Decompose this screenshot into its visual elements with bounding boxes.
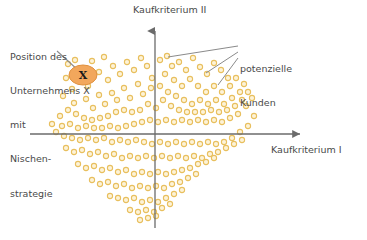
scatter-dot xyxy=(139,199,144,204)
scatter-dot xyxy=(153,105,158,110)
scatter-dot xyxy=(218,67,223,72)
scatter-dot xyxy=(155,169,160,174)
scatter-dot xyxy=(160,97,165,102)
scatter-dot xyxy=(135,81,140,86)
scatter-dot xyxy=(157,83,162,88)
scatter-dot xyxy=(185,175,190,180)
scatter-dot xyxy=(213,141,218,146)
annotation-line: Unternehmens X xyxy=(10,85,90,96)
scatter-dot xyxy=(181,141,186,146)
scatter-dot xyxy=(159,153,164,158)
annotation-line: Position des xyxy=(10,51,90,62)
scatter-dot xyxy=(111,151,116,156)
scatter-dot xyxy=(135,155,140,160)
scatter-dot xyxy=(163,171,168,176)
scatter-dot xyxy=(187,165,192,170)
scatter-dot xyxy=(203,89,208,94)
scatter-dot xyxy=(179,167,184,172)
scatter-dot xyxy=(208,107,213,112)
scatter-dot xyxy=(141,139,146,144)
scatter-dot xyxy=(149,75,154,80)
scatter-dot xyxy=(110,63,115,68)
scatter-dot xyxy=(90,105,95,110)
scatter-dot xyxy=(147,197,152,202)
scatter-dot xyxy=(139,169,144,174)
scatter-dot xyxy=(138,55,143,60)
scatter-dot xyxy=(129,185,134,190)
scatter-dot xyxy=(163,195,168,200)
scatter-dot xyxy=(175,153,180,158)
scatter-dot xyxy=(133,137,138,142)
scatter-dot xyxy=(200,109,205,114)
annotation-line: potenzielle xyxy=(240,63,292,74)
scatter-dot xyxy=(189,139,194,144)
scatter-dot xyxy=(159,205,164,210)
scatter-dot xyxy=(89,117,94,122)
scatter-dot xyxy=(225,75,230,80)
scatter-dot xyxy=(155,119,160,124)
scatter-dot xyxy=(169,63,174,68)
y-axis-label: Kaufkriterium II xyxy=(133,4,206,15)
scatter-dot xyxy=(89,58,94,63)
scatter-dot xyxy=(155,199,160,204)
scatter-dot xyxy=(149,141,154,146)
scatter-dot xyxy=(192,109,197,114)
scatter-dot xyxy=(109,139,114,144)
scatter-dot xyxy=(137,217,142,222)
scatter-dot xyxy=(137,107,142,112)
scatter-dot xyxy=(123,197,128,202)
scatter-dot xyxy=(171,169,176,174)
scatter-dot xyxy=(145,185,150,190)
scatter-dot xyxy=(121,85,126,90)
scatter-dot xyxy=(168,103,173,108)
scatter-dot xyxy=(219,89,224,94)
scatter-dot xyxy=(197,141,202,146)
scatter-dot xyxy=(151,155,156,160)
scatter-dot xyxy=(144,63,149,68)
scatter-dot xyxy=(187,119,192,124)
scatter-dot xyxy=(165,89,170,94)
scatter-dot xyxy=(105,113,110,118)
scatter-dot xyxy=(115,169,120,174)
scatter-dot xyxy=(221,139,226,144)
potential-customers-annotation: potenzielle Kunden xyxy=(240,40,292,131)
scatter-dot xyxy=(97,181,102,186)
scatter-dot xyxy=(179,187,184,192)
scatter-dot xyxy=(97,115,102,120)
scatter-dot xyxy=(205,101,210,106)
scatter-dot xyxy=(213,97,218,102)
scatter-dot xyxy=(107,165,112,170)
scatter-dot xyxy=(153,183,158,188)
scatter-dot xyxy=(224,107,229,112)
scatter-dot xyxy=(127,207,132,212)
scatter-dot xyxy=(91,163,96,168)
scatter-dot xyxy=(117,137,122,142)
scatter-dot xyxy=(153,213,158,218)
scatter-dot xyxy=(211,117,216,122)
scatter-dot xyxy=(197,97,202,102)
scatter-dot xyxy=(117,71,122,76)
scatter-dot xyxy=(171,77,176,82)
scatter-dot xyxy=(179,117,184,122)
scatter-dot xyxy=(101,135,106,140)
scatter-dot xyxy=(125,139,130,144)
scatter-dot xyxy=(179,83,184,88)
scatter-dot xyxy=(157,139,162,144)
scatter-dot xyxy=(195,161,200,166)
scatter-dot xyxy=(121,107,126,112)
scatter-dot xyxy=(137,183,142,188)
scatter-dot xyxy=(233,75,238,80)
scatter-dot xyxy=(211,83,216,88)
scatter-dot xyxy=(109,90,114,95)
scatter-dot xyxy=(123,167,128,172)
scatter-dot xyxy=(203,159,208,164)
scatter-dot xyxy=(127,153,132,158)
scatter-dot xyxy=(107,193,112,198)
scatter-dot xyxy=(161,185,166,190)
scatter-dot xyxy=(93,137,98,142)
scatter-dot xyxy=(131,171,136,176)
scatter-dot xyxy=(164,53,169,58)
scatter-dot xyxy=(211,155,216,160)
annotation-line: Nischen- xyxy=(10,153,90,164)
scatter-dot xyxy=(216,109,221,114)
